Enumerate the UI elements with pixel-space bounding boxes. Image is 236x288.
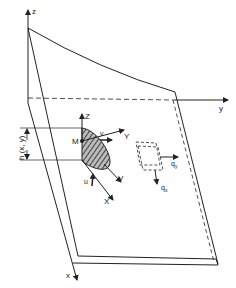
z-axis-label: z xyxy=(32,7,36,16)
qy-label: qy xyxy=(171,160,178,169)
plate-right-hidden-edge xyxy=(173,100,214,262)
x-axis xyxy=(72,262,77,280)
x-axis-label: x xyxy=(66,271,70,280)
qx-arrow xyxy=(155,170,157,184)
v-direction-label: V xyxy=(118,174,124,183)
plate-diagram: z x y h (x, y) M Z Y v X V u xyxy=(0,0,236,288)
plate-right-edge xyxy=(175,92,218,264)
plate-top-curved-edge xyxy=(28,28,175,92)
point-m-label: M xyxy=(72,137,79,146)
u-displacement-arrow xyxy=(92,174,93,186)
element-section xyxy=(82,128,110,169)
local-x-label: X xyxy=(104,197,110,206)
shear-element xyxy=(136,142,163,170)
v-label: v xyxy=(100,130,104,137)
local-y-label: Y xyxy=(124,132,130,141)
plate-bottom-outer-edge xyxy=(73,263,218,265)
y-axis-label: y xyxy=(219,104,223,113)
local-z-label: Z xyxy=(85,112,90,121)
u-label: u xyxy=(84,178,88,185)
plate-bottom-inner-edge xyxy=(78,256,216,259)
thickness-label: h (x, y) xyxy=(17,135,26,160)
plate-outer-left-edge xyxy=(28,100,72,262)
plate-hidden-edge xyxy=(28,98,175,100)
qx-label: qx xyxy=(161,184,168,193)
plate-inner-left-edge xyxy=(28,28,78,256)
